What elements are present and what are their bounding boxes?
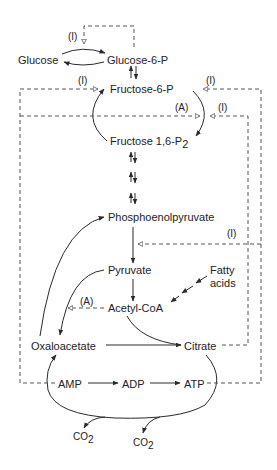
- oxaloacetate-label: Oxaloacetate: [31, 340, 96, 352]
- reversible-steps: [131, 152, 135, 204]
- fatty-acids-arrow-3: [171, 296, 179, 302]
- metabolic-regulation-diagram: Glucose Glucose-6-P Fructose-6-P Fructos…: [0, 0, 277, 470]
- regulation-label-hexokinase-inhibition: (I): [68, 31, 77, 42]
- fatty-acids-arrow-1: [196, 276, 207, 283]
- co2-release-arrow-1: [84, 417, 105, 428]
- citrate-label: Citrate: [184, 340, 216, 352]
- oxaloacetate-to-pep-arrow: [40, 217, 104, 336]
- g6p-to-glucose-arrow: [64, 62, 104, 65]
- acetyl-coa-label: Acetyl-CoA: [108, 302, 164, 314]
- phosphoenolpyruvate-label: Phosphoenolpyruvate: [108, 211, 214, 223]
- glucose-6-phosphate-label: Glucose-6-P: [107, 54, 168, 66]
- acetylcoa-to-citrate-curve: [127, 316, 181, 345]
- fructose-6-phosphate-label: Fructose-6-P: [110, 83, 174, 95]
- co2-label-2: CO2: [133, 437, 154, 451]
- co2-text: CO: [133, 437, 148, 448]
- co2-text: CO: [73, 431, 88, 442]
- regulation-label-pfk-inhibition-left: (I): [78, 75, 87, 86]
- subscript: 2: [148, 440, 154, 451]
- co2-label-1: CO2: [73, 431, 94, 445]
- regulation-label-fbpase-inhibition: (I): [218, 102, 227, 113]
- pathway-canvas: Glucose Glucose-6-P Fructose-6-P Fructos…: [0, 0, 277, 470]
- fatty-acids-arrow-2: [182, 286, 193, 293]
- fatty-acids-label-line1: Fatty: [210, 264, 235, 276]
- regulation-label-pyruvate-carboxylase-activation: (A): [80, 296, 93, 307]
- fructose-bisphosphate-label: Fructose 1,6-P2: [110, 135, 188, 150]
- subscript: 2: [182, 138, 188, 150]
- adp-label: ADP: [122, 378, 145, 390]
- glucose-label: Glucose: [18, 54, 58, 66]
- fructose-bisphosphate-text: Fructose 1,6-P: [110, 135, 182, 147]
- pfk-reaction-arrow: [193, 91, 204, 136]
- regulation-label-pfk-inhibition-right: (I): [206, 75, 215, 86]
- subscript: 2: [88, 434, 94, 445]
- co2-release-arrow-2: [143, 417, 160, 433]
- atp-label: ATP: [184, 378, 205, 390]
- glucose-to-g6p-arrow: [62, 49, 105, 54]
- fatty-acids-label-line2: acids: [210, 277, 236, 289]
- regulation-label-pyruvate-kinase-inhibition: (I): [227, 228, 236, 239]
- fbpase-reaction-arrow: [93, 89, 107, 141]
- regulation-label-fbpase-activation: (A): [175, 102, 188, 113]
- g6p-inhibits-hexokinase-line: [84, 26, 134, 47]
- pyruvate-label: Pyruvate: [108, 264, 151, 276]
- amp-label: AMP: [58, 378, 82, 390]
- amp-left-regulation-line-to-f6p: [20, 89, 98, 383]
